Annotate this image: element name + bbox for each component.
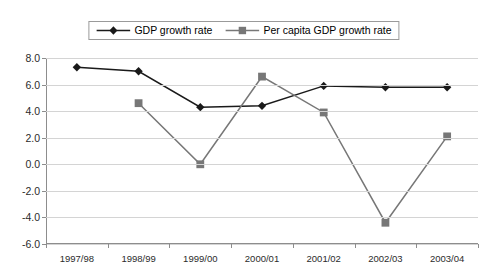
- chart-legend: GDP growth rate Per capita GDP growth ra…: [88, 21, 399, 40]
- data-point-marker: [73, 63, 81, 71]
- x-tick-label: 1998/99: [121, 253, 155, 264]
- legend-label-per-capita-gdp-growth-rate: Per capita GDP growth rate: [263, 24, 391, 36]
- line-chart: GDP growth rate Per capita GDP growth ra…: [0, 0, 488, 279]
- gridline: [46, 164, 478, 165]
- data-point-marker: [320, 82, 328, 90]
- y-tick-label: 0.0: [25, 158, 40, 170]
- y-tick-mark: [42, 191, 46, 192]
- y-tick-label: 8.0: [25, 52, 40, 64]
- x-tick-label: 2002/03: [368, 253, 402, 264]
- y-tick-mark: [42, 58, 46, 59]
- x-tick-mark: [293, 244, 294, 248]
- x-tick-mark: [231, 244, 232, 248]
- gridline: [46, 191, 478, 192]
- x-tick-label: 2000/01: [245, 253, 279, 264]
- x-tick-label: 1999/00: [183, 253, 217, 264]
- gridline: [46, 138, 478, 139]
- data-point-marker: [134, 67, 142, 75]
- x-tick-label: 1997/98: [60, 253, 94, 264]
- square-marker-icon: [225, 25, 259, 36]
- y-tick-label: 2.0: [25, 132, 40, 144]
- x-tick-mark: [355, 244, 356, 248]
- series-layer: [46, 58, 478, 244]
- gridline: [46, 111, 478, 112]
- y-tick-mark: [42, 85, 46, 86]
- data-point-marker: [196, 103, 204, 111]
- y-tick-label: -6.0: [22, 238, 40, 250]
- diamond-marker-icon: [96, 25, 130, 36]
- gridline: [46, 244, 478, 245]
- legend-item-gdp-growth-rate: GDP growth rate: [96, 24, 212, 36]
- data-point-marker: [258, 73, 266, 81]
- gridline: [46, 58, 478, 59]
- y-tick-label: -2.0: [22, 185, 40, 197]
- gridline: [46, 217, 478, 218]
- data-point-marker: [443, 132, 451, 140]
- gridline: [46, 85, 478, 86]
- y-tick-label: -4.0: [22, 211, 40, 223]
- x-tick-mark: [416, 244, 417, 248]
- x-tick-mark: [478, 244, 479, 248]
- legend-item-per-capita-gdp-growth-rate: Per capita GDP growth rate: [225, 24, 391, 36]
- y-tick-mark: [42, 138, 46, 139]
- data-point-marker: [135, 99, 143, 107]
- y-tick-label: 6.0: [25, 79, 40, 91]
- data-point-marker: [320, 109, 328, 117]
- x-tick-mark: [108, 244, 109, 248]
- y-tick-mark: [42, 217, 46, 218]
- x-tick-mark: [169, 244, 170, 248]
- y-tick-mark: [42, 164, 46, 165]
- y-tick-label: 4.0: [25, 105, 40, 117]
- legend-label-gdp-growth-rate: GDP growth rate: [134, 24, 212, 36]
- x-tick-mark: [46, 244, 47, 248]
- x-tick-label: 2003/04: [430, 253, 464, 264]
- y-tick-mark: [42, 111, 46, 112]
- data-point-marker: [382, 219, 390, 227]
- data-point-marker: [258, 102, 266, 110]
- x-tick-label: 2001/02: [307, 253, 341, 264]
- plot-area: 8.06.04.02.00.0-2.0-4.0-6.01997/981998/9…: [46, 58, 478, 244]
